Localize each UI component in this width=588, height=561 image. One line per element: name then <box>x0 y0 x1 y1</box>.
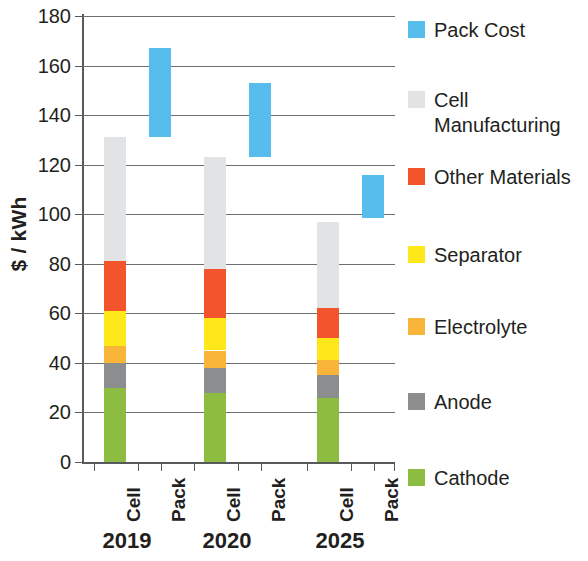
y-axis-tick-label: 120 <box>11 153 71 176</box>
y-axis-tick-label: 160 <box>11 54 71 77</box>
bar-segment-electrolyte <box>104 346 126 363</box>
plot-area: 180160140120100806040200 <box>83 16 395 462</box>
y-axis-tick <box>75 66 83 67</box>
bar-segment-cell-manufacturing <box>204 157 226 269</box>
bar-segment-other-materials <box>104 261 126 311</box>
bar-segment-cell-manufacturing <box>317 222 339 309</box>
bar-segment-anode <box>317 375 339 397</box>
legend-label: Cell Manufacturing <box>434 88 561 138</box>
x-axis-bar-label: Cell <box>223 487 245 522</box>
y-axis-tick <box>75 165 83 166</box>
chart-legend: Pack CostCell ManufacturingOther Materia… <box>408 0 588 520</box>
y-axis-tick <box>75 313 83 314</box>
x-axis-tick <box>161 462 162 471</box>
bar-segment-anode <box>204 368 226 393</box>
y-axis-tick-label: 60 <box>11 302 71 325</box>
bar-2019-pack <box>149 16 171 462</box>
y-axis-line <box>82 14 84 464</box>
legend-label: Other Materials <box>434 165 571 190</box>
bar-segment-pack-cost <box>149 48 171 137</box>
bar-2025-pack <box>362 16 384 462</box>
bar-segment-electrolyte <box>317 360 339 375</box>
legend-item[interactable]: Cathode <box>408 466 510 491</box>
bar-segment-anode <box>104 363 126 388</box>
y-axis-tick-label: 180 <box>11 5 71 28</box>
x-axis-bar-label: Cell <box>336 487 358 522</box>
legend-item[interactable]: Anode <box>408 390 492 415</box>
y-axis-tick-label: 80 <box>11 252 71 275</box>
bar-2020-pack <box>249 16 271 462</box>
x-axis-tick <box>94 462 95 471</box>
legend-item[interactable]: Cell Manufacturing <box>408 88 561 138</box>
bar-2020-cell <box>204 16 226 462</box>
bar-segment-cathode <box>104 388 126 462</box>
legend-swatch-icon <box>408 393 425 410</box>
legend-swatch-icon <box>408 168 425 185</box>
legend-swatch-icon <box>408 246 425 263</box>
bar-segment-separator <box>104 311 126 346</box>
x-axis-group-label: 2020 <box>182 528 272 554</box>
bar-segment-other-materials <box>204 269 226 319</box>
x-axis-group-label: 2025 <box>295 528 385 554</box>
x-axis-tick <box>238 462 239 471</box>
legend-label: Electrolyte <box>434 315 527 340</box>
y-axis-tick-label: 20 <box>11 401 71 424</box>
legend-swatch-icon <box>408 469 425 486</box>
x-axis-tick <box>138 462 139 471</box>
y-axis-tick <box>75 462 83 463</box>
gridline <box>83 16 395 17</box>
y-axis-tick-label: 0 <box>11 451 71 474</box>
legend-swatch-icon <box>408 318 425 335</box>
y-axis-tick-label: 140 <box>11 104 71 127</box>
x-axis-bar-label: Pack <box>268 478 290 522</box>
y-axis-tick <box>75 363 83 364</box>
x-axis-group-label: 2019 <box>82 528 172 554</box>
x-axis-bar-label: Cell <box>123 487 145 522</box>
gridline <box>83 412 395 413</box>
gridline <box>83 115 395 116</box>
x-axis-tick <box>261 462 262 471</box>
x-axis-tick <box>394 462 395 471</box>
bar-2025-cell <box>317 16 339 462</box>
bar-segment-other-materials <box>317 308 339 338</box>
legend-item[interactable]: Separator <box>408 243 522 268</box>
gridline <box>83 313 395 314</box>
legend-label: Anode <box>434 390 492 415</box>
legend-item[interactable]: Other Materials <box>408 165 571 190</box>
legend-swatch-icon <box>408 21 425 38</box>
gridline <box>83 264 395 265</box>
y-axis-tick-label: 40 <box>11 351 71 374</box>
x-axis-tick <box>307 462 308 471</box>
bar-segment-electrolyte <box>204 351 226 368</box>
gridline <box>83 165 395 166</box>
bar-2019-cell <box>104 16 126 462</box>
y-axis-tick <box>75 214 83 215</box>
gridline <box>83 66 395 67</box>
x-axis-bar-label: Pack <box>381 478 403 522</box>
bar-segment-pack-cost <box>362 175 384 218</box>
legend-swatch-icon <box>408 91 425 108</box>
bar-segment-cell-manufacturing <box>104 137 126 261</box>
battery-cost-breakdown-chart: $ / kWh 180160140120100806040200 CellPac… <box>0 0 588 561</box>
gridline <box>83 363 395 364</box>
legend-label: Pack Cost <box>434 18 525 43</box>
x-axis-tick <box>194 462 195 471</box>
x-axis-tick <box>351 462 352 471</box>
bar-segment-cathode <box>317 398 339 462</box>
legend-item[interactable]: Electrolyte <box>408 315 527 340</box>
bar-segment-cathode <box>204 393 226 462</box>
x-axis-tick <box>374 462 375 471</box>
y-axis-tick <box>75 412 83 413</box>
gridline <box>83 214 395 215</box>
legend-label: Separator <box>434 243 522 268</box>
legend-label: Cathode <box>434 466 510 491</box>
bar-segment-separator <box>204 318 226 350</box>
y-axis-tick <box>75 115 83 116</box>
bar-segment-pack-cost <box>249 83 271 157</box>
bar-segment-separator <box>317 338 339 360</box>
x-axis-bar-label: Pack <box>168 478 190 522</box>
y-axis-tick <box>75 264 83 265</box>
legend-item[interactable]: Pack Cost <box>408 18 525 43</box>
y-axis-tick-label: 100 <box>11 203 71 226</box>
y-axis-tick <box>75 16 83 17</box>
